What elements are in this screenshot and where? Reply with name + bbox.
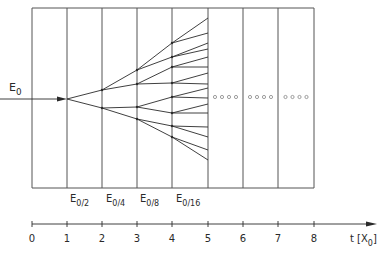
incoming-energy-label: E0 [9, 81, 22, 97]
shower-branch [172, 18, 208, 43]
interaction-vertex [171, 136, 173, 138]
axis-tick-label: 1 [64, 233, 70, 244]
shower-branch [137, 119, 172, 126]
axis-tick-label: 2 [99, 233, 105, 244]
continuation-dot [269, 95, 272, 98]
continuation-dot [248, 95, 251, 98]
shower-branch [137, 57, 172, 70]
shower-branch [172, 57, 208, 67]
shower-branch [67, 90, 102, 99]
energy-labels: E0/2E0/4E0/8E0/16 [70, 193, 200, 208]
axis-title: t [X0] [350, 233, 377, 248]
shower-branch [137, 83, 172, 84]
interaction-vertex [136, 106, 138, 108]
continuation-dot [298, 95, 301, 98]
shower-branch [102, 107, 137, 108]
continuation-dot [262, 95, 265, 98]
depth-axis: 012345678t [X0] [29, 221, 377, 248]
continuation-dot [305, 95, 308, 98]
interaction-vertex [171, 96, 173, 98]
interaction-vertex [136, 118, 138, 120]
continuation-dot [291, 95, 294, 98]
interaction-vertex [171, 82, 173, 84]
energy-fraction-label: E0/2 [70, 193, 89, 208]
arrowhead-icon [57, 97, 67, 102]
interaction-vertex [136, 69, 138, 71]
axis-tick-label: 4 [169, 233, 175, 244]
shower-branch [137, 43, 172, 70]
shower-branch [137, 107, 172, 113]
interaction-vertex [171, 66, 173, 68]
interaction-vertex [101, 89, 103, 91]
axis-tick-label: 3 [134, 233, 140, 244]
incoming-particle-arrow: E0 [0, 81, 67, 102]
shower-branch [172, 88, 208, 97]
continuation-dot [227, 95, 230, 98]
axis-arrow-icon [366, 222, 377, 227]
shower-branch [172, 97, 208, 98]
axis-tick-label: 6 [240, 233, 246, 244]
energy-fraction-label: E0/4 [106, 193, 125, 208]
interaction-vertex [171, 125, 173, 127]
interaction-vertex [171, 42, 173, 44]
shower-branch [172, 73, 208, 83]
shower-branch [67, 99, 102, 108]
shower-branch [102, 108, 137, 119]
continuation-dot [255, 95, 258, 98]
shower-branch [172, 83, 208, 84]
continuation-dot [284, 95, 287, 98]
shower-branch [172, 126, 208, 137]
axis-tick-label: 5 [205, 233, 211, 244]
continuation-dots [213, 95, 308, 98]
continuation-dot [234, 95, 237, 98]
interaction-vertex [101, 107, 103, 109]
axis-tick-label: 8 [311, 233, 317, 244]
shower-branch [137, 119, 172, 137]
shower-branch [172, 33, 208, 43]
continuation-dot [220, 95, 223, 98]
energy-fraction-label: E0/8 [140, 193, 159, 208]
radiation-length-grid [32, 8, 314, 188]
interaction-vertex [136, 83, 138, 85]
interaction-vertex [171, 112, 173, 114]
axis-tick-label: 7 [275, 233, 281, 244]
shower-branch [172, 104, 208, 113]
shower-branch [172, 126, 208, 127]
energy-fraction-label: E0/16 [176, 193, 200, 208]
shower-branch [137, 97, 172, 107]
interaction-vertex [171, 56, 173, 58]
shower-diagram: E0 E0/2E0/4E0/8E0/16 012345678t [X0] [0, 0, 391, 257]
shower-branch [137, 67, 172, 84]
continuation-dot [213, 95, 216, 98]
axis-tick-label: 0 [29, 233, 35, 244]
